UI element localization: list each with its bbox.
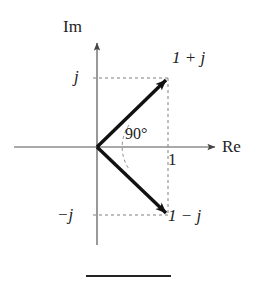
tick-label-imag-positive: j (74, 68, 79, 85)
imaginary-axis-label: Im (63, 18, 82, 35)
angle-annotation-label: 90° (125, 126, 147, 142)
tick-label-imag-negative: −j (57, 206, 73, 223)
vector-1-minus-j (97, 147, 166, 213)
point-label-1-minus-j: 1 − j (168, 207, 201, 224)
point-label-1-plus-j: 1 + j (172, 49, 205, 66)
real-axis-label: Re (222, 138, 241, 155)
tick-label-real-positive: 1 (168, 151, 177, 168)
complex-plane-figure: Im Re j −j 1 90° 1 + j 1 − j (0, 0, 259, 281)
